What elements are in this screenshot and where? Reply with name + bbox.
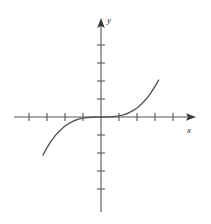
cubic-function-figure: y x <box>0 0 211 224</box>
y-axis-label: y <box>106 15 111 25</box>
x-axis-label: x <box>186 125 191 135</box>
graph-canvas: y x <box>0 0 211 224</box>
